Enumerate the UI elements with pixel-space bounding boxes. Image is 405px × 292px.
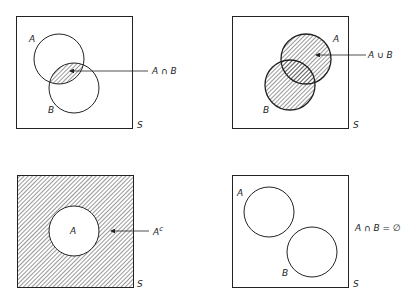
annotation: A ∩ B = ∅ xyxy=(354,223,401,233)
annotation: A ∩ B xyxy=(151,66,177,76)
panel-intersection: A B S A ∩ B xyxy=(17,17,177,131)
label-a: A xyxy=(236,188,243,198)
annotation: Ac xyxy=(152,225,163,237)
universe-box xyxy=(233,176,349,288)
label-a: A xyxy=(332,34,339,44)
panel-union: A B S A ∪ B xyxy=(233,17,393,131)
label-b: B xyxy=(263,105,269,115)
label-b: B xyxy=(48,105,54,115)
label-a: A xyxy=(28,34,35,44)
label-b: B xyxy=(282,268,288,278)
label-s: S xyxy=(353,279,359,289)
panel-disjoint: A B S A ∩ B = ∅ xyxy=(233,176,401,290)
circle-b xyxy=(287,227,337,277)
panel-complement: A S Ac xyxy=(17,175,163,289)
venn-diagrams: A B S A ∩ B A B S A ∪ B A S Ac A B S A ∩… xyxy=(0,0,405,292)
circle-a xyxy=(244,187,294,237)
label-a: A xyxy=(69,226,76,236)
label-s: S xyxy=(137,120,143,130)
annotation: A ∪ B xyxy=(367,50,393,60)
label-s: S xyxy=(353,120,359,130)
label-s: S xyxy=(137,279,143,289)
